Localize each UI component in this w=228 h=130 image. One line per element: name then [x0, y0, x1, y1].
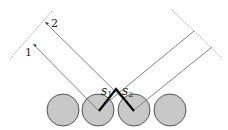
- ray-label-1: 1: [25, 46, 32, 59]
- s1-subscript: 1: [107, 90, 112, 99]
- atom-circle-4: [154, 94, 186, 126]
- s2-subscript: 2: [128, 90, 133, 99]
- diffraction-diagram: 1 2 s1 s2: [0, 0, 228, 130]
- arrow-icon-ray-1: [33, 44, 37, 47]
- arrow-icon-ray-2: [45, 22, 49, 25]
- outgoing-wavefront-dotted: [172, 10, 222, 58]
- atom-row: [47, 94, 186, 126]
- segment-label-s2: s2: [122, 84, 133, 99]
- atom-circle-1: [47, 94, 79, 126]
- ray-label-2: 2: [51, 17, 58, 30]
